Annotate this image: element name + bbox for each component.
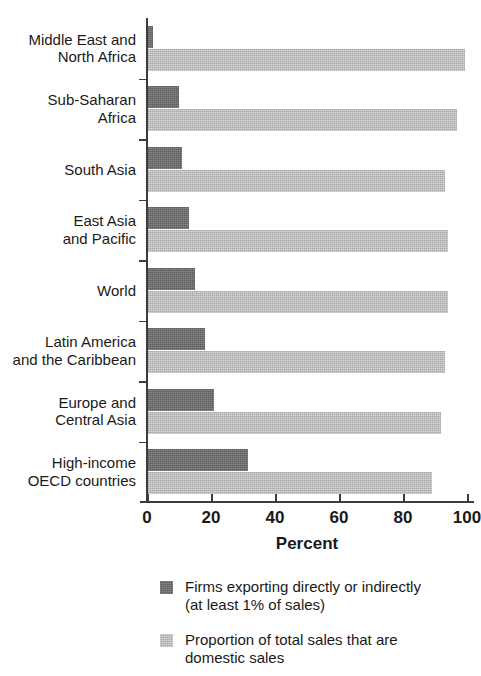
bar-domestic-sales: [147, 412, 441, 434]
bar-domestic-sales: [147, 291, 448, 313]
bar-exporting-firms: [147, 268, 195, 290]
x-axis-tick: [211, 494, 213, 502]
bar-exporting-firms: [147, 449, 248, 471]
bar-domestic-sales: [147, 351, 445, 373]
x-axis-tick: [467, 494, 469, 502]
y-axis-category-label: South Asia: [0, 161, 136, 179]
x-axis-tick: [403, 494, 405, 502]
y-axis-category-label: East Asia and Pacific: [0, 212, 136, 247]
bar-domestic-sales: [147, 472, 432, 494]
chart-legend: Firms exporting directly or indirectly (…: [160, 578, 470, 676]
legend-label-domestic-sales: Proportion of total sales that are domes…: [185, 631, 398, 667]
x-axis-tick-label: 100: [453, 508, 481, 528]
x-axis-tick: [147, 494, 149, 502]
x-axis-tick: [339, 494, 341, 502]
y-axis-category-label: Middle East and North Africa: [0, 31, 136, 66]
x-axis-tick-label: 0: [142, 508, 151, 528]
legend-item-domestic-sales: Proportion of total sales that are domes…: [160, 631, 470, 667]
legend-label-exporting-firms: Firms exporting directly or indirectly (…: [185, 578, 421, 614]
bar-exporting-firms: [147, 147, 182, 169]
bar-domestic-sales: [147, 170, 445, 192]
x-axis-tick: [275, 494, 277, 502]
bar-exporting-firms: [147, 86, 179, 108]
x-axis-tick-label: 80: [394, 508, 413, 528]
x-axis-tick-label: 20: [202, 508, 221, 528]
bar-exporting-firms: [147, 389, 214, 411]
bar-domestic-sales: [147, 49, 465, 71]
y-axis-line: [146, 18, 148, 502]
bar-exporting-firms: [147, 26, 153, 48]
bar-domestic-sales: [147, 109, 457, 131]
y-axis-category-label: World: [0, 282, 136, 300]
x-axis-tick-label: 60: [330, 508, 349, 528]
y-axis-category-label: Sub-Saharan Africa: [0, 91, 136, 126]
y-axis-category-label: High-income OECD countries: [0, 454, 136, 489]
bar-exporting-firms: [147, 328, 205, 350]
bar-domestic-sales: [147, 230, 448, 252]
x-axis-tick-label: 40: [266, 508, 285, 528]
y-axis-category-label: Latin America and the Caribbean: [0, 333, 136, 368]
y-axis-category-label: Europe and Central Asia: [0, 394, 136, 429]
bar-exporting-firms: [147, 207, 189, 229]
legend-item-exporting-firms: Firms exporting directly or indirectly (…: [160, 578, 470, 614]
legend-swatch-dark-icon: [160, 581, 173, 594]
x-axis-title: Percent: [147, 534, 467, 554]
legend-swatch-light-icon: [160, 634, 173, 647]
x-axis-line: [140, 501, 474, 503]
